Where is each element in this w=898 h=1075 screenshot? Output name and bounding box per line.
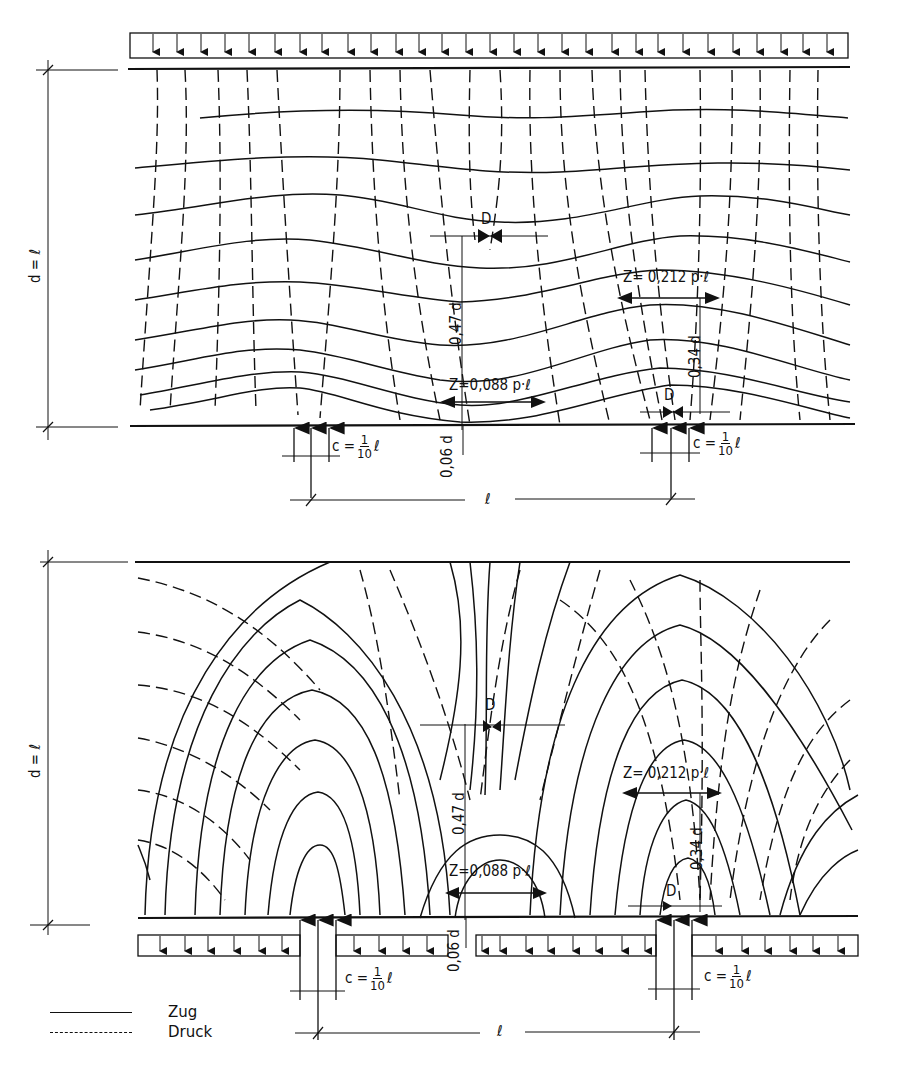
bottom-tension-mid: Z=0,088 p·ℓ — [449, 864, 531, 879]
top-compression-support: D — [664, 388, 674, 403]
bottom-lever-support: 0,34 d — [690, 827, 705, 870]
top-height-label: d = ℓ — [28, 249, 43, 283]
top-bottom-offset: 0,06 d — [440, 435, 455, 478]
top-load-box — [130, 33, 848, 58]
legend-label: Druck — [168, 1023, 212, 1041]
top-tension-mid: Z=0,088 p·ℓ — [449, 378, 531, 393]
bottom-tension-support: Z= 0,212 p·ℓ — [623, 766, 709, 781]
top-support-width-right: c =110ℓ — [693, 430, 740, 457]
top-span-label: ℓ — [485, 492, 491, 507]
bottom-compression-support: D — [666, 884, 676, 899]
bottom-support-width-right: c =110ℓ — [704, 963, 751, 990]
top-lever-support: 0,34 d — [688, 335, 703, 378]
bottom-compression-label: D — [485, 698, 495, 713]
top-lever-mid: 0,47 d — [449, 302, 464, 345]
solid-line-swatch — [50, 1012, 132, 1013]
dashed-line-swatch — [50, 1032, 132, 1033]
top-compression-lines — [140, 70, 830, 425]
top-support-width-left: c =110ℓ — [332, 433, 379, 460]
bottom-lever-mid: 0,47 d — [452, 792, 467, 835]
stress-trajectory-diagram — [0, 0, 898, 1075]
top-compression-label: D — [481, 212, 491, 227]
bottom-support-width-left: c =110ℓ — [345, 965, 392, 992]
legend-item-druck: Druck — [50, 1022, 212, 1042]
bottom-height-label: d = ℓ — [28, 744, 43, 778]
top-tension-support: Z= 0,212 p·ℓ — [623, 270, 709, 285]
load-box-2 — [336, 935, 448, 956]
bottom-span-label: ℓ — [497, 1024, 503, 1039]
bottom-bottom-offset: 0,06 d — [447, 929, 462, 972]
legend: Zug Druck — [50, 1002, 212, 1042]
top-load-arrows — [153, 34, 827, 52]
legend-label: Zug — [168, 1003, 197, 1021]
bottom-load-arrows — [160, 936, 838, 951]
legend-item-zug: Zug — [50, 1002, 212, 1022]
